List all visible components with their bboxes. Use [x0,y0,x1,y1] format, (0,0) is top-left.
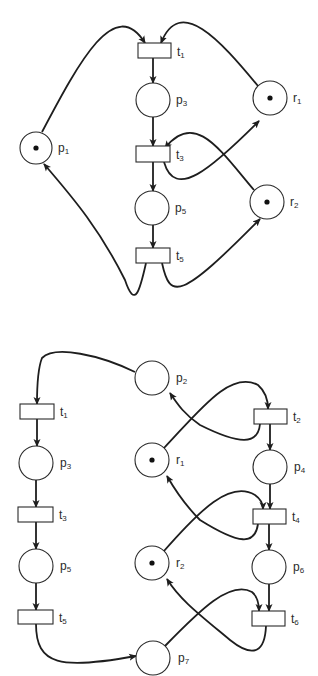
place-p5: p5 [135,191,187,225]
place-circle [252,550,286,584]
transition-box [136,248,170,263]
arc [37,352,135,404]
transition-t2: t2 [254,409,301,425]
arc [44,164,146,295]
place-p7: p7 [136,641,190,675]
arc [167,579,266,651]
place-p3: p3 [136,83,188,117]
transition-label: t6 [291,612,299,627]
place-label: p3 [176,93,188,108]
token-dot-icon [264,199,269,204]
place-circle [135,191,169,225]
petri-net-canvas: t1t3t5p1p3p5r1r2 t1t2t3t4t5t6p2p3r1p4p5r… [0,0,318,676]
place-circle [253,450,287,484]
place-label: p6 [293,560,305,575]
place-label: r2 [176,556,185,571]
place-r1: r1 [135,443,185,477]
place-p5: p5 [19,549,72,583]
petri-net-top: t1t3t5p1p3p5r1r2 [20,22,302,295]
transition-t6: t6 [252,611,299,627]
transition-t5: t5 [18,610,67,626]
transition-label: t4 [292,510,300,525]
place-p6: p6 [252,550,305,584]
token-dot-icon [267,95,272,100]
arc [165,589,259,646]
place-circle [136,641,170,675]
transition-box [136,146,170,162]
place-p1: p1 [20,132,70,164]
place-label: r2 [290,195,299,210]
place-p2: p2 [135,361,188,395]
transition-label: t1 [60,405,68,420]
place-r2: r2 [135,546,185,580]
place-label: r1 [176,453,185,468]
token-dot-icon [149,457,154,462]
place-p3: p3 [19,446,72,480]
place-label: p4 [294,460,306,475]
token-dot-icon [149,560,154,565]
place-label: p2 [176,371,188,386]
arc [161,22,258,86]
transition-label: t3 [59,508,67,523]
place-label: p5 [175,201,187,216]
transition-label: t5 [59,611,67,626]
transition-box [254,409,287,424]
transition-t1: t1 [138,43,185,60]
place-r1: r1 [253,81,302,115]
transition-box [252,611,285,626]
transition-label: t5 [176,249,184,264]
transition-t3: t3 [18,507,67,523]
place-label: p1 [58,141,70,156]
token-dot-icon [33,145,38,150]
transition-box [18,610,53,624]
place-r2: r2 [250,185,299,219]
place-label: p3 [60,456,72,471]
transition-label: t2 [293,410,301,425]
transition-t5: t5 [136,248,184,264]
transition-box [138,43,171,58]
transition-label: t1 [177,45,185,60]
place-label: p5 [60,559,72,574]
place-circle [136,83,170,117]
place-label: p7 [178,651,190,666]
transition-t4: t4 [253,509,300,525]
place-circle [19,549,53,583]
arc [170,393,260,440]
place-circle [19,446,53,480]
transition-t1: t1 [20,404,68,420]
arc [36,624,136,663]
transition-box [253,509,286,524]
place-circle [135,361,169,395]
place-p4: p4 [253,450,306,484]
transition-box [20,404,54,419]
transition-box [18,507,53,522]
petri-net-bottom: t1t2t3t4t5t6p2p3r1p4p5r2p6p7 [18,352,306,675]
arc [42,27,145,132]
arc [167,476,258,539]
place-label: r1 [293,91,302,106]
transition-label: t3 [176,148,184,163]
arc [164,491,263,551]
transition-t3: t3 [136,146,184,163]
